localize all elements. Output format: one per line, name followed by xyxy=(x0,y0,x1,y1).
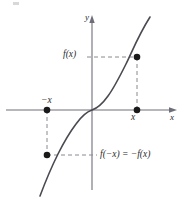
label-fx: f(x) xyxy=(63,50,76,60)
label-symmetry-identity: f(−x) = −f(x) xyxy=(100,150,150,160)
x-axis-label: x xyxy=(170,113,174,122)
graph-canvas xyxy=(0,0,182,198)
y-axis-label: y xyxy=(85,13,89,22)
label-negative-x: −x xyxy=(41,96,52,106)
point-lower-left xyxy=(44,152,51,159)
point-x-axis-left xyxy=(44,107,51,114)
point-upper-right xyxy=(134,54,141,61)
label-x: x xyxy=(131,113,135,123)
y-axis xyxy=(89,15,94,190)
cubic-curve xyxy=(40,17,150,196)
odd-function-figure: y x f(x) −x x f(−x) = −f(x) xyxy=(0,0,182,198)
y-axis-arrowhead xyxy=(89,15,94,23)
